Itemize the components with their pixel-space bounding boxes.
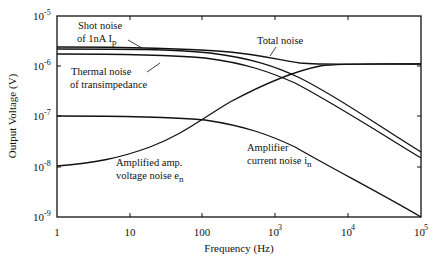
svg-text:10: 10 <box>125 226 137 238</box>
svg-text:105: 105 <box>414 223 428 238</box>
svg-text:Amplifier: Amplifier <box>247 142 289 153</box>
svg-text:10-6: 10-6 <box>33 58 51 72</box>
svg-text:Amplified amp.: Amplified amp. <box>116 157 183 168</box>
svg-text:voltage noise en: voltage noise en <box>116 170 184 184</box>
annotation-thermal-noise: Thermal noise of transimpedance <box>70 63 160 90</box>
svg-text:Shot noise: Shot noise <box>78 20 122 31</box>
svg-text:10-5: 10-5 <box>33 8 51 22</box>
svg-text:100: 100 <box>194 226 211 238</box>
x-tick-labels: 1 10 100 103 104 105 <box>54 223 428 238</box>
annotation-shot-noise: Shot noise of 1nA Ip <box>77 20 142 48</box>
y-axis-label: Output Voltage (V) <box>6 73 19 158</box>
svg-text:of 1nA Ip: of 1nA Ip <box>77 33 117 47</box>
svg-text:current noise in: current noise in <box>247 155 312 169</box>
svg-text:of transimpedance: of transimpedance <box>70 79 148 90</box>
svg-text:104: 104 <box>341 223 355 238</box>
annotation-total-noise: Total noise <box>257 35 304 56</box>
svg-text:10-7: 10-7 <box>33 108 51 122</box>
x-ticks <box>130 16 348 217</box>
noise-chart: 10-5 10-6 10-7 10-8 10-9 1 10 100 103 10… <box>0 0 437 262</box>
annotation-current-noise: Amplifier current noise in <box>247 142 312 169</box>
svg-text:10-8: 10-8 <box>33 159 51 173</box>
svg-text:Thermal noise: Thermal noise <box>71 66 132 77</box>
svg-text:10-9: 10-9 <box>33 209 51 223</box>
svg-text:Total noise: Total noise <box>257 35 304 46</box>
svg-text:103: 103 <box>268 223 282 238</box>
annotation-voltage-noise: Amplified amp. voltage noise en <box>116 157 184 184</box>
svg-text:1: 1 <box>54 226 60 238</box>
x-axis-label: Frequency (Hz) <box>204 242 274 255</box>
series-current-noise <box>57 116 421 217</box>
y-tick-labels: 10-5 10-6 10-7 10-8 10-9 <box>33 8 51 223</box>
